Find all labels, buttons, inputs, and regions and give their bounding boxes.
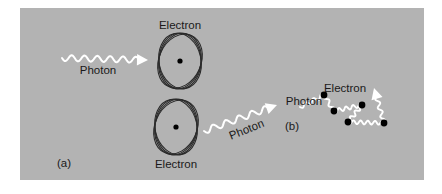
figure-canvas: Photon Electron Electron Photon (a) Elec… [0,0,442,194]
electron-dot [345,119,352,126]
panel-a-label: (a) [57,157,71,169]
nucleus-dot [177,58,182,63]
diagram-panel-background [20,8,424,180]
electron-dot [381,120,388,127]
electron-b-label: Electron [324,82,366,94]
photon-b-label: Photon [286,95,322,107]
photon-incoming-label: Photon [80,64,116,76]
electron-dot [359,102,366,109]
photon-electron-figure: Photon Electron Electron Photon (a) Elec… [0,0,442,194]
electron-bottom-label: Electron [155,158,197,170]
nucleus-dot [173,124,178,129]
electron-top-label: Electron [159,19,201,31]
panel-b-label: (b) [285,120,299,132]
electron-dot [331,108,338,115]
